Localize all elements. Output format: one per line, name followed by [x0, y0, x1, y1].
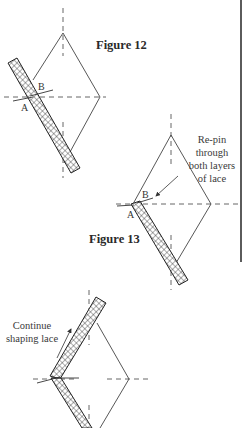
svg-text:both layers: both layers: [189, 160, 235, 171]
figure-14: Continue shaping lace: [6, 290, 150, 428]
lace-strip: [50, 297, 106, 379]
point-b-label: B: [142, 189, 149, 200]
point-a-label: A: [21, 102, 29, 113]
figure-12: B A Figure 12: [4, 8, 147, 178]
svg-text:of lace: of lace: [198, 173, 227, 184]
repin-arrow: [156, 176, 178, 196]
continue-annotation: Continue shaping lace: [6, 320, 59, 344]
lace-strip: [8, 58, 80, 173]
lace-strip-lower: [51, 378, 92, 428]
figure-12-title: Figure 12: [96, 38, 147, 52]
figure-13-title: Figure 13: [89, 232, 140, 246]
pin-a: [117, 205, 134, 206]
svg-text:shaping lace: shaping lace: [6, 333, 59, 344]
svg-text:Re-pin: Re-pin: [198, 134, 227, 145]
point-b-label: B: [38, 81, 45, 92]
point-a-label: A: [127, 209, 135, 220]
lace-shaping-diagram: B A Figure 12 B A Re-pin through both la…: [0, 0, 242, 428]
figure-13: B A Re-pin through both layers of lace F…: [89, 114, 240, 290]
diamond-outline: [97, 323, 129, 428]
svg-text:through: through: [196, 147, 229, 158]
svg-text:Continue: Continue: [13, 320, 52, 331]
repin-annotation: Re-pin through both layers of lace: [189, 134, 235, 184]
